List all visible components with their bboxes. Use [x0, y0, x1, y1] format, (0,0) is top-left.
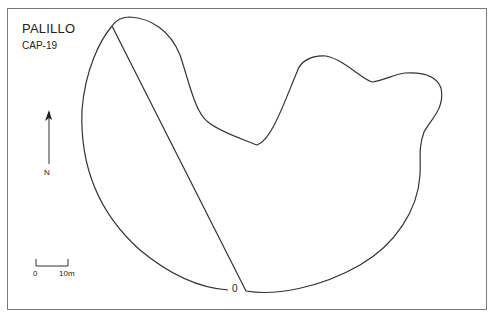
- map-subtitle: CAP-19: [22, 40, 57, 51]
- north-label: N: [44, 168, 50, 177]
- scale-start-label: 0: [33, 269, 37, 278]
- map-title: PALILLO: [22, 21, 75, 36]
- scale-end-label: 10m: [59, 269, 75, 278]
- site-contour-outline: [82, 17, 442, 292]
- contour-elevation-label: 0: [230, 283, 240, 294]
- scale-bar: [36, 259, 68, 266]
- north-arrow-icon: [45, 110, 52, 164]
